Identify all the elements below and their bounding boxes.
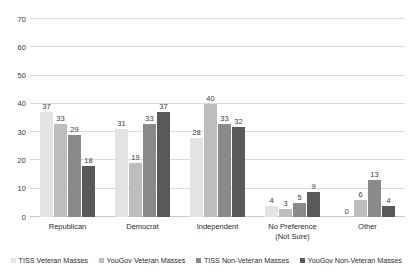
bar[interactable]: 13: [368, 180, 381, 217]
bar-group: 28403332: [180, 19, 255, 217]
y-axis: 010203040506070: [0, 19, 26, 217]
y-axis-tick-label: 30: [2, 128, 26, 136]
bar[interactable]: 4: [265, 206, 278, 217]
bar-value-label: 4: [386, 197, 390, 205]
bar-group-bars: 4359: [255, 19, 330, 217]
x-axis-category-label: Republican: [30, 222, 105, 242]
legend-swatch-icon: [11, 258, 16, 263]
bar-value-label: 29: [70, 126, 78, 134]
x-axis-category-label-line: Independent: [180, 222, 255, 232]
bar[interactable]: 31: [115, 129, 128, 217]
bar-slot: 6: [354, 19, 367, 217]
bar-chart: 010203040506070 373329183119333728403332…: [0, 0, 413, 275]
bar-value-label: 9: [311, 183, 315, 191]
legend-label: YouGov Non-Veteran Masses: [308, 257, 402, 264]
legend-item[interactable]: TISS Non-Veteran Masses: [196, 257, 289, 264]
legend-item[interactable]: YouGov Veteran Masses: [99, 257, 185, 264]
bar[interactable]: 29: [68, 135, 81, 217]
bar-slot: 28: [190, 19, 203, 217]
bar-value-label: 33: [56, 115, 64, 123]
bar-group-bars: 28403332: [180, 19, 255, 217]
bar[interactable]: 28: [190, 138, 203, 217]
bar-group: 4359: [255, 19, 330, 217]
bar-slot: 32: [232, 19, 245, 217]
bar-value-label: 28: [192, 129, 200, 137]
bar-slot: 0: [340, 19, 353, 217]
legend-swatch-icon: [99, 258, 104, 263]
legend-item[interactable]: YouGov Non-Veteran Masses: [300, 257, 402, 264]
bar-value-label: 32: [234, 118, 242, 126]
legend-swatch-icon: [300, 258, 305, 263]
x-axis-category-label-line: Democrat: [105, 222, 180, 232]
plot-area: 373329183119333728403332435906134: [30, 19, 405, 217]
bar-value-label: 37: [159, 103, 167, 111]
bar-value-label: 37: [42, 103, 50, 111]
bar[interactable]: 33: [218, 124, 231, 217]
legend-label: TISS Non-Veteran Masses: [204, 257, 289, 264]
bar-slot: 3: [279, 19, 292, 217]
bar-slot: 19: [129, 19, 142, 217]
bar[interactable]: 40: [204, 104, 217, 217]
x-axis-category-label-line: Other: [330, 222, 405, 232]
y-axis-tick-label: 70: [2, 15, 26, 23]
bar[interactable]: 3: [279, 209, 292, 217]
y-axis-tick-label: 40: [2, 100, 26, 108]
bar[interactable]: 18: [82, 166, 95, 217]
bar-value-label: 5: [297, 194, 301, 202]
bar-group: 06134: [330, 19, 405, 217]
x-axis-category-label: Other: [330, 222, 405, 242]
bar[interactable]: 33: [54, 124, 67, 217]
bar[interactable]: 4: [382, 206, 395, 217]
bar[interactable]: 9: [307, 192, 320, 217]
x-axis-category-label: Democrat: [105, 222, 180, 242]
bar[interactable]: 32: [232, 127, 245, 218]
bar-slot: 18: [82, 19, 95, 217]
x-axis-category-label: No Preference(Not Sure): [255, 222, 330, 242]
bar-group: 37332918: [30, 19, 105, 217]
bar-group-bars: 06134: [330, 19, 405, 217]
legend-swatch-icon: [196, 258, 201, 263]
bar-group: 31193337: [105, 19, 180, 217]
chart-legend: TISS Veteran MassesYouGov Veteran Masses…: [0, 257, 413, 264]
legend-label: TISS Veteran Masses: [19, 257, 89, 264]
bar[interactable]: 6: [354, 200, 367, 217]
legend-item[interactable]: TISS Veteran Masses: [11, 257, 88, 264]
y-axis-tick-label: 50: [2, 72, 26, 80]
bar-group-bars: 37332918: [30, 19, 105, 217]
bar-value-label: 40: [206, 95, 214, 103]
x-axis-labels: RepublicanDemocratIndependentNo Preferen…: [30, 222, 405, 242]
bar-slot: 33: [218, 19, 231, 217]
bar-slot: 31: [115, 19, 128, 217]
bar-slot: 9: [307, 19, 320, 217]
bar-slot: 13: [368, 19, 381, 217]
bar-value-label: 18: [84, 157, 92, 165]
bar-groups: 373329183119333728403332435906134: [30, 19, 405, 217]
bar-slot: 37: [157, 19, 170, 217]
legend-label: YouGov Veteran Masses: [107, 257, 186, 264]
y-axis-tick-label: 10: [2, 185, 26, 193]
bar-slot: 5: [293, 19, 306, 217]
bar-value-label: 31: [117, 120, 125, 128]
bar-value-label: 4: [269, 197, 273, 205]
bar-value-label: 13: [370, 171, 378, 179]
bar-slot: 37: [40, 19, 53, 217]
bar-slot: 33: [143, 19, 156, 217]
bar[interactable]: 19: [129, 163, 142, 217]
bar-group-bars: 31193337: [105, 19, 180, 217]
bar[interactable]: 37: [157, 112, 170, 217]
x-axis-category-label-line: Republican: [30, 222, 105, 232]
bar-slot: 29: [68, 19, 81, 217]
bar[interactable]: 33: [143, 124, 156, 217]
bar[interactable]: 5: [293, 203, 306, 217]
bar-value-label: 0: [344, 208, 348, 216]
x-axis-category-label-line: No Preference: [255, 222, 330, 232]
bar-value-label: 33: [220, 115, 228, 123]
y-axis-tick-label: 0: [2, 213, 26, 221]
bar-slot: 4: [265, 19, 278, 217]
y-axis-tick-label: 20: [2, 157, 26, 165]
y-axis-tick-label: 60: [2, 44, 26, 52]
bar[interactable]: 37: [40, 112, 53, 217]
x-axis-category-label: Independent: [180, 222, 255, 242]
x-axis-category-label-line: (Not Sure): [255, 232, 330, 242]
bar-value-label: 3: [283, 200, 287, 208]
